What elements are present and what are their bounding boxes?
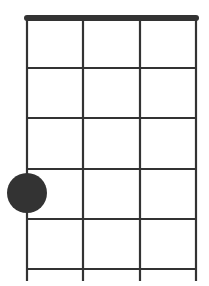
finger-dot (7, 173, 47, 213)
chord-diagram (0, 0, 209, 286)
strings (27, 18, 196, 281)
frets (27, 68, 196, 269)
